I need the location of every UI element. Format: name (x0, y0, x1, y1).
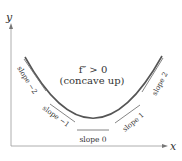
second-derivative-label: f″ > 0 (79, 64, 108, 75)
concavity-diagram: y x f″ > 0 (concave up) slope −2 slope −… (0, 0, 182, 161)
slope-neg2-label: slope −2 (15, 65, 38, 96)
x-axis-arrow-icon (162, 144, 168, 148)
x-axis-label: x (170, 140, 177, 153)
slope-2-label: slope 2 (151, 71, 170, 97)
slope-1-label: slope 1 (121, 111, 146, 133)
y-axis-label: y (5, 11, 13, 24)
slope-0-label: slope 0 (79, 135, 106, 144)
concave-up-label: (concave up) (59, 75, 124, 86)
